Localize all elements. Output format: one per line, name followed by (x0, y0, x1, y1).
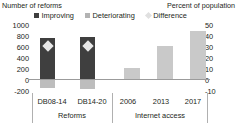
left-tick-3: 400 (17, 55, 29, 62)
category-label-db14-20: DB14-20 (72, 98, 112, 106)
right-tick-3: 20 (205, 55, 213, 62)
zero-baseline (28, 79, 210, 80)
bar-internet-2006 (124, 68, 140, 80)
bar-deteriorating-db08-14 (40, 80, 55, 88)
bar-deteriorating-db14-20 (80, 80, 95, 89)
left-tick-2: 600 (17, 44, 29, 51)
legend-label-improving: Improving (42, 11, 74, 20)
right-axis-title: Percent of population (167, 2, 235, 10)
bar-internet-2017 (190, 31, 206, 79)
legend-item-improving: Improving (34, 11, 74, 20)
category-axis: DB08-14 DB14-20 2006 2013 2017 Reforms I… (32, 93, 208, 133)
left-tick-0: 1000 (13, 22, 29, 29)
right-tick-0: 50 (205, 22, 213, 29)
group-label-internet-access: Internet access (113, 112, 207, 120)
chart-legend: Improving Deteriorating Difference (34, 11, 187, 20)
category-label-2006: 2006 (113, 98, 143, 106)
left-tick-4: 200 (17, 66, 29, 73)
bar-internet-2013 (157, 46, 173, 79)
legend-swatch-difference-icon (145, 12, 152, 19)
legend-swatch-improving-icon (34, 13, 39, 18)
legend-item-difference: Difference (146, 11, 187, 20)
left-axis-ticks: 1000 800 600 400 200 0 -200 (0, 22, 29, 93)
legend-label-difference: Difference (153, 11, 187, 20)
category-label-2013: 2013 (146, 98, 176, 106)
left-tick-1: 800 (17, 33, 29, 40)
category-label-2017: 2017 (178, 98, 208, 106)
right-axis-ticks: 50 40 30 20 10 0 -10 (205, 22, 235, 93)
legend-label-deteriorating: Deteriorating (92, 11, 134, 20)
chart-container: Number of reforms Percent of population … (0, 0, 238, 133)
right-tick-4: 10 (205, 66, 213, 73)
category-label-db08-14: DB08-14 (32, 98, 72, 106)
left-axis-title: Number of reforms (2, 2, 62, 10)
left-tick-6: -200 (14, 88, 29, 95)
legend-swatch-deteriorating-icon (85, 13, 90, 18)
legend-item-deteriorating: Deteriorating (85, 11, 135, 20)
right-tick-2: 30 (205, 44, 213, 51)
plot-area (32, 22, 202, 93)
group-label-reforms: Reforms (32, 112, 112, 120)
right-tick-1: 40 (205, 33, 213, 40)
